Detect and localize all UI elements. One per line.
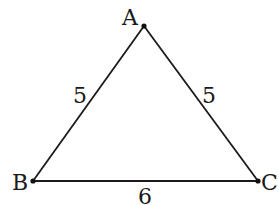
vertex-b-point [30,178,35,183]
side-ab-length-label: 5 [73,83,87,108]
vertex-b-label: B [12,170,28,195]
edge-ac [144,26,258,181]
side-bc-length-label: 6 [138,184,152,205]
vertex-c-label: C [261,170,278,195]
vertex-c-point [255,178,260,183]
vertex-a-label: A [121,5,139,30]
edge-ab [33,26,144,181]
vertex-a-point [141,23,146,28]
isosceles-triangle-diagram: A B C 5 5 6 [0,0,279,205]
side-ac-length-label: 5 [202,83,216,108]
